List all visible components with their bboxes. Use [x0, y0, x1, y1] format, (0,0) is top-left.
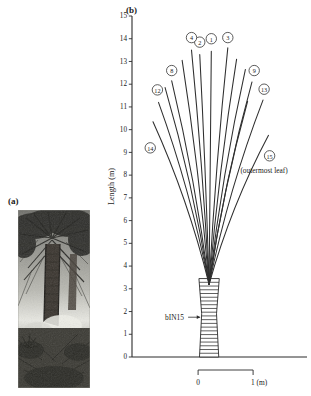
panel-a-photograph: (a) [6, 196, 102, 392]
y-axis-tick-label: 8 [123, 171, 127, 179]
leaf-number-8: 8 [170, 67, 173, 74]
palm-tree-photograph [18, 210, 90, 388]
y-axis-tick-label: 11 [120, 103, 127, 111]
y-axis-tick-label: 4 [123, 262, 127, 270]
y-axis-tick-label: 5 [123, 239, 127, 247]
y-axis-title: Length (m) [107, 168, 116, 205]
leaf-number-13: 13 [261, 86, 267, 93]
y-axis-tick-label: 15 [120, 12, 128, 20]
y-axis-tick-label: 3 [123, 285, 127, 293]
y-axis-tick-label: 10 [120, 126, 128, 134]
outermost-leaf-note: (outermost leaf) [240, 166, 288, 175]
leaf-number-2: 2 [198, 39, 201, 46]
leaf-number-9: 9 [253, 67, 256, 74]
leaf-number-3: 3 [226, 34, 229, 41]
y-axis-tick-label: 7 [123, 194, 127, 202]
scale-bar-end-label: 1 (m) [251, 378, 268, 387]
y-axis-tick-label: 1 [123, 330, 127, 338]
y-axis-tick-label: 2 [123, 308, 127, 316]
y-axis-tick-label: 9 [123, 149, 127, 157]
leaf-number-14: 14 [147, 145, 153, 152]
leaf-number-4: 4 [190, 34, 193, 41]
y-axis-tick-label: 14 [120, 35, 128, 43]
leaf-number-1: 1 [210, 36, 213, 43]
palm-architecture-plot: 0123456789101112131415Length (m)12348912… [104, 0, 311, 396]
photo-svg [18, 210, 90, 388]
figure-root: (a) [0, 0, 311, 396]
scale-bar-start-label: 0 [196, 378, 200, 387]
leaf-number-12: 12 [154, 87, 160, 94]
trunk-annotation-label: bIN15 [165, 313, 184, 322]
panel-b-diagram: (b) 0123456789101112131415Length (m)1234… [104, 0, 311, 396]
leaf-number-15: 15 [267, 153, 273, 160]
leaf-4 [192, 50, 210, 284]
trunk-outline [199, 279, 219, 357]
y-axis-tick-label: 12 [120, 80, 128, 88]
y-axis-tick-label: 13 [120, 58, 128, 66]
y-axis-tick-label: 0 [123, 353, 127, 361]
trunk-annotation-arrow-icon [197, 315, 200, 319]
y-axis-tick-label: 6 [123, 217, 127, 225]
panel-a-label: (a) [8, 196, 19, 206]
scale-bar [198, 370, 253, 375]
